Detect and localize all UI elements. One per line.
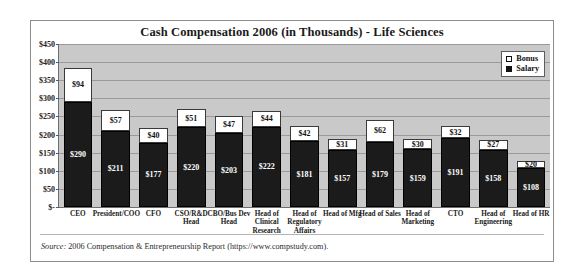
bar-group[interactable]: $290$94CEO (64, 68, 93, 207)
bar-value-label-bonus: $44 (261, 114, 273, 123)
bar-segment-bonus[interactable]: $57 (101, 110, 130, 131)
legend-item-salary: Salary (506, 64, 539, 74)
bar-segment-bonus[interactable]: $20 (517, 161, 546, 168)
bar-segment-bonus[interactable]: $40 (139, 128, 168, 142)
legend-label-bonus: Bonus (516, 54, 538, 64)
bar-group[interactable]: $158$27Head of Engineering (479, 140, 508, 207)
bar-value-label-bonus: $42 (298, 129, 310, 138)
bar-value-label-salary: $179 (372, 170, 388, 179)
bar-value-label-salary: $222 (259, 162, 275, 171)
bar-value-label-salary: $159 (410, 174, 426, 183)
bar-value-label-bonus: $47 (223, 120, 235, 129)
bar-segment-salary[interactable]: $203 (215, 133, 244, 207)
gridline (59, 116, 550, 117)
bar-value-label-salary: $157 (334, 174, 350, 183)
bar-segment-bonus[interactable]: $51 (177, 109, 206, 127)
y-axis-tick (56, 80, 59, 81)
bar-segment-salary[interactable]: $108 (517, 168, 546, 207)
bar-value-label-salary: $158 (485, 174, 501, 183)
source-note: Source: 2006 Compensation & Entrepreneur… (41, 242, 328, 251)
bar-segment-bonus[interactable]: $42 (290, 126, 319, 141)
bar-segment-salary[interactable]: $191 (441, 138, 470, 207)
bar-value-label-bonus: $51 (185, 114, 197, 123)
y-axis-tick-label: $200 (39, 130, 55, 139)
bar-value-label-salary: $211 (108, 164, 124, 173)
y-axis-tick (56, 207, 59, 208)
gridline (59, 80, 550, 81)
bar-segment-salary[interactable]: $211 (101, 131, 130, 207)
bar-group[interactable]: $203$47CBO/Bus Dev Head (215, 116, 244, 207)
legend-swatch-bonus-icon (506, 56, 512, 62)
bar-value-label-bonus: $57 (110, 116, 122, 125)
y-axis-tick-label: $450 (39, 40, 55, 49)
bar-value-label-salary: $290 (70, 150, 86, 159)
source-text: 2006 Compensation & Entrepreneurship Rep… (66, 242, 328, 251)
bar-segment-bonus[interactable]: $94 (64, 68, 93, 102)
y-axis-tick-label: $50 (43, 184, 55, 193)
bar-value-label-salary: $203 (221, 166, 237, 175)
legend-swatch-salary-icon (506, 66, 512, 72)
bar-group[interactable]: $179$62Head of Sales (366, 120, 395, 207)
bar-segment-salary[interactable]: $177 (139, 143, 168, 207)
bar-group[interactable]: $220$51CSO/R&D Head (177, 109, 206, 207)
y-axis-tick (56, 189, 59, 190)
y-axis-tick-label: $350 (39, 76, 55, 85)
bar-group[interactable]: $108$20Head of HR (517, 161, 546, 207)
bar-segment-bonus[interactable]: $62 (366, 120, 395, 142)
chart-legend: Bonus Salary (501, 51, 545, 77)
legend-label-salary: Salary (516, 64, 539, 74)
x-axis-tick-label: Head of HR (508, 210, 554, 218)
source-label: Source: (41, 242, 66, 251)
bar-group[interactable]: $211$57President/COO (101, 110, 130, 207)
chart-title: Cash Compensation 2006 (in Thousands) - … (31, 25, 553, 40)
bar-value-label-bonus: $20 (525, 160, 537, 169)
chart-figure: Cash Compensation 2006 (in Thousands) - … (30, 20, 554, 262)
bar-group[interactable]: $177$40CFO (139, 128, 168, 207)
gridline (59, 98, 550, 99)
bar-segment-salary[interactable]: $222 (252, 127, 281, 207)
bar-segment-bonus[interactable]: $30 (403, 139, 432, 150)
bar-group[interactable]: $159$30Head of Marketing (403, 139, 432, 207)
bar-segment-salary[interactable]: $290 (64, 102, 93, 207)
bar-segment-bonus[interactable]: $44 (252, 111, 281, 127)
bar-segment-salary[interactable]: $158 (479, 150, 508, 207)
bar-group[interactable]: $222$44Head of Clinical Research (252, 111, 281, 207)
bar-value-label-salary: $177 (145, 170, 161, 179)
y-axis-tick (56, 116, 59, 117)
bar-value-label-bonus: $94 (72, 80, 84, 89)
bar-value-label-salary: $108 (523, 183, 539, 192)
bar-segment-bonus[interactable]: $32 (441, 126, 470, 138)
bar-segment-bonus[interactable]: $27 (479, 140, 508, 150)
bar-segment-bonus[interactable]: $47 (215, 116, 244, 133)
y-axis-tick (56, 44, 59, 45)
y-axis-tick (56, 153, 59, 154)
y-axis-tick-label: $400 (39, 58, 55, 67)
bar-value-label-salary: $181 (296, 170, 312, 179)
bar-value-label-bonus: $30 (412, 140, 424, 149)
bar-group[interactable]: $181$42Head of Regulatory Affairs (290, 126, 319, 207)
legend-item-bonus: Bonus (506, 54, 539, 64)
bar-group[interactable]: $157$31Head of Mfg (328, 139, 357, 207)
bar-group[interactable]: $191$32CTO (441, 126, 470, 207)
bar-segment-salary[interactable]: $220 (177, 127, 206, 207)
gridline (59, 62, 550, 63)
y-axis-tick (56, 171, 59, 172)
y-axis-tick (56, 98, 59, 99)
y-axis-tick-label: $150 (39, 148, 55, 157)
bar-value-label-salary: $191 (448, 168, 464, 177)
y-axis-tick (56, 135, 59, 136)
y-axis-tick (56, 62, 59, 63)
bar-segment-bonus[interactable]: $31 (328, 139, 357, 150)
footer-divider (40, 234, 544, 235)
bar-segment-salary[interactable]: $157 (328, 150, 357, 207)
bar-value-label-bonus: $31 (336, 140, 348, 149)
bar-value-label-bonus: $32 (450, 128, 462, 137)
y-axis-tick-label: $300 (39, 94, 55, 103)
gridline (59, 44, 550, 45)
bar-value-label-bonus: $40 (147, 131, 159, 140)
y-axis-tick-label: $100 (39, 166, 55, 175)
bar-segment-salary[interactable]: $181 (290, 141, 319, 207)
bar-segment-salary[interactable]: $159 (403, 149, 432, 207)
bar-segment-salary[interactable]: $179 (366, 142, 395, 207)
plot-area: $450$400$350$300$250$200$150$100$50$- $2… (58, 44, 550, 208)
